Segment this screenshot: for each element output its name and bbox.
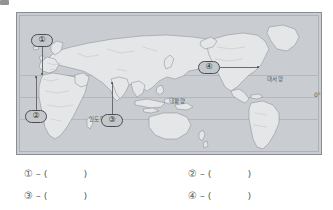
map-marker-2-label: ② [32, 112, 39, 120]
map-marker-4-label: ④ [205, 63, 212, 71]
ocean-label-atlantic: 대서양 [267, 75, 283, 83]
world-landmass-shapes [17, 13, 322, 155]
leader-line-marker-2 [36, 77, 37, 111]
answer-row-1: ① – ( ) ② – ( ) [16, 162, 322, 184]
answer-item-4[interactable]: ④ – ( ) [166, 190, 316, 201]
answer-4-close-paren: ) [247, 190, 251, 201]
world-map-panel: 태평양 대서양 인도양 0° ① ② ③ ④ [16, 12, 322, 155]
answer-1-number: ① [24, 168, 33, 179]
answer-item-1[interactable]: ① – ( ) [16, 168, 166, 179]
leader-dot-marker-2 [35, 76, 37, 78]
map-marker-2[interactable]: ② [25, 110, 47, 123]
scan-artifact-speck [0, 0, 9, 5]
answer-1-close-paren: ) [83, 168, 87, 179]
leader-line-marker-1 [42, 46, 43, 74]
answer-area: ① – ( ) ② – ( ) ③ – ( ) ④ – ( ) [16, 162, 322, 206]
answer-3-open-paren: ( [44, 190, 48, 201]
equator-degree-label: 0° [314, 91, 321, 98]
answer-4-open-paren: ( [208, 190, 212, 201]
answer-item-3[interactable]: ③ – ( ) [16, 190, 166, 201]
map-marker-3-label: ③ [108, 116, 115, 124]
leader-line-marker-4 [220, 67, 258, 68]
ocean-label-pacific: 태평양 [169, 97, 185, 105]
leader-dot-marker-4 [257, 66, 259, 68]
answer-2-close-paren: ) [247, 168, 251, 179]
map-marker-4[interactable]: ④ [198, 61, 220, 74]
answer-4-dash: – [200, 190, 205, 201]
map-marker-1-label: ① [38, 36, 45, 44]
answer-3-number: ③ [24, 190, 33, 201]
answer-2-number: ② [188, 168, 197, 179]
leader-line-marker-3 [112, 83, 113, 115]
answer-4-number: ④ [188, 190, 197, 201]
leader-dot-marker-1 [41, 73, 43, 75]
leader-dot-marker-3 [111, 82, 113, 84]
map-marker-1[interactable]: ① [31, 34, 53, 47]
answer-item-2[interactable]: ② – ( ) [166, 168, 316, 179]
answer-2-dash: – [200, 168, 205, 179]
answer-1-dash: – [36, 168, 41, 179]
map-marker-3[interactable]: ③ [101, 114, 123, 127]
answer-3-close-paren: ) [83, 190, 87, 201]
answer-row-2: ③ – ( ) ④ – ( ) [16, 184, 322, 206]
answer-2-open-paren: ( [208, 168, 212, 179]
answer-1-open-paren: ( [44, 168, 48, 179]
answer-3-dash: – [36, 190, 41, 201]
